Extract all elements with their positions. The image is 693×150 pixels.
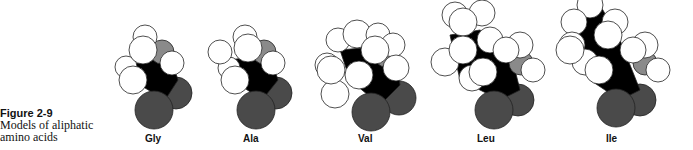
label-ile: Ile	[606, 133, 617, 144]
ile-model	[556, 0, 670, 127]
leu-model	[431, 0, 545, 129]
label-ala: Ala	[243, 133, 259, 144]
ala-model	[208, 25, 292, 129]
label-val: Val	[358, 133, 372, 144]
label-gly: Gly	[145, 133, 161, 144]
gly-model	[115, 25, 192, 129]
space-filling-models	[0, 0, 693, 150]
label-leu: Leu	[477, 133, 495, 144]
val-model	[315, 20, 416, 131]
